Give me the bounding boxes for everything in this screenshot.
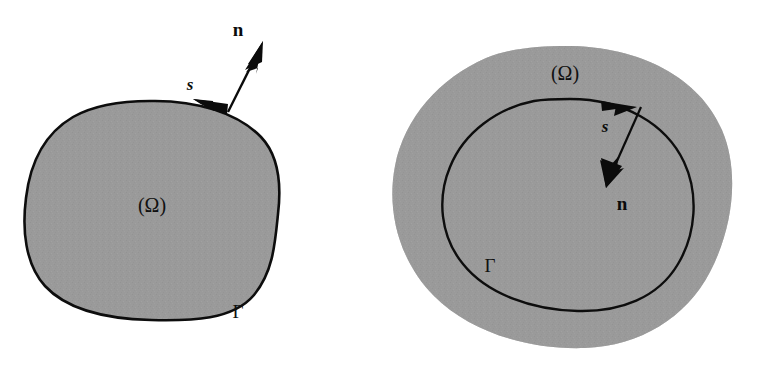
left-tangent-label: s [186,75,194,94]
right-boundary-label: Γ [485,255,496,276]
left-domain-label: (Ω) [138,194,166,217]
diagram-svg: n s (Ω) Γ [0,0,764,375]
left-normal-label: n [233,19,244,40]
figure-canvas: n s (Ω) Γ [0,0,764,375]
right-domain-label: (Ω) [551,62,579,85]
left-boundary-label: Γ [233,301,244,322]
right-tangent-label: s [601,117,609,136]
right-normal-label: n [617,193,628,214]
